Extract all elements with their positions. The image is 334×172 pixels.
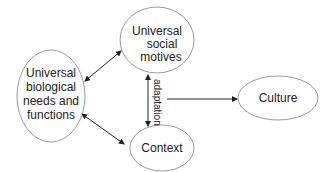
node-label: Culture: [259, 91, 298, 105]
edge-bio-context-arrow: [82, 114, 124, 144]
node-label: needs and: [23, 94, 79, 108]
node-label: Context: [141, 141, 183, 155]
node-label: functions: [27, 108, 75, 122]
node-label: biological: [26, 80, 76, 94]
node-universal-social-motives: Universal social motives: [120, 7, 194, 73]
edge-label-adaptation: adaptation: [152, 79, 163, 126]
node-universal-biological-needs: Universal biological needs and functions: [17, 50, 85, 142]
node-label: Universal: [26, 66, 76, 80]
node-label: social: [147, 37, 178, 51]
node-context: Context: [130, 125, 194, 171]
node-culture: Culture: [238, 76, 318, 120]
edge-bio-social-arrow: [85, 51, 121, 81]
node-label: Universal: [132, 24, 182, 38]
diagram-canvas: Universal biological needs and functions…: [0, 0, 334, 172]
node-label: motives: [140, 50, 181, 64]
